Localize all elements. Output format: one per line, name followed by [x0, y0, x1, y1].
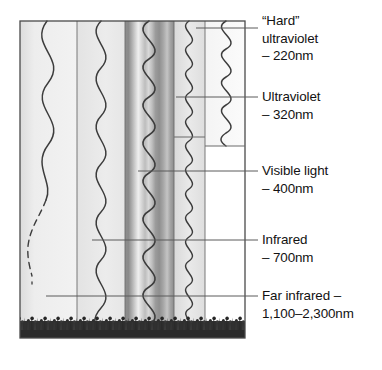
ground-baseline [20, 330, 245, 338]
spectrum-figure-svg [0, 0, 382, 370]
spectrum-diagram: “Hard” ultraviolet – 220nm Ultraviolet –… [0, 0, 382, 370]
far-infrared-column [20, 21, 77, 334]
hard-ultraviolet-column [205, 21, 245, 146]
